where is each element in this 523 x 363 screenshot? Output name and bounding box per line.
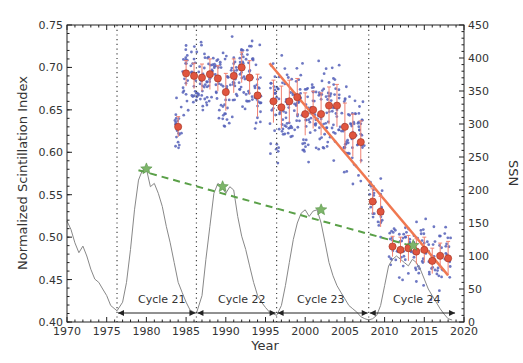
- raw-point: [420, 229, 423, 232]
- raw-point: [357, 174, 360, 177]
- raw-point: [331, 66, 334, 69]
- raw-point: [230, 69, 233, 72]
- mean-point: [278, 104, 285, 111]
- raw-point: [323, 72, 326, 75]
- raw-point: [438, 289, 441, 292]
- raw-point: [269, 82, 272, 85]
- raw-point: [182, 89, 185, 92]
- mean-point: [270, 98, 277, 105]
- arrow-head-right: [270, 310, 276, 316]
- y2-tick-label: 200: [468, 184, 489, 197]
- raw-point: [401, 278, 404, 281]
- raw-point: [229, 83, 232, 86]
- raw-point: [338, 64, 341, 67]
- raw-point: [203, 98, 206, 101]
- mean-point: [175, 123, 182, 130]
- raw-point: [180, 132, 183, 135]
- raw-point: [216, 97, 219, 100]
- raw-point: [251, 98, 254, 101]
- mean-point: [294, 94, 301, 101]
- raw-point: [243, 75, 246, 78]
- raw-point: [323, 133, 326, 136]
- raw-point: [379, 177, 382, 180]
- x-tick-label: 1980: [132, 325, 160, 338]
- raw-point: [309, 117, 312, 120]
- raw-point: [417, 272, 420, 275]
- raw-point: [238, 81, 241, 84]
- raw-point: [333, 93, 336, 96]
- mean-point: [190, 72, 197, 79]
- raw-point: [295, 119, 298, 122]
- raw-point: [330, 99, 333, 102]
- raw-point: [186, 79, 189, 82]
- raw-point: [186, 54, 189, 57]
- raw-point: [256, 116, 259, 119]
- raw-point: [444, 226, 447, 229]
- raw-point: [332, 123, 335, 126]
- y-tick-label: 0.45: [39, 274, 64, 287]
- raw-point: [315, 146, 318, 149]
- raw-point: [245, 58, 248, 61]
- mean-point: [325, 102, 332, 109]
- raw-point: [449, 265, 452, 268]
- raw-point: [285, 116, 288, 119]
- raw-point: [413, 256, 416, 259]
- mean-point: [214, 75, 221, 82]
- raw-point: [254, 86, 257, 89]
- x-tick-label: 1985: [172, 325, 200, 338]
- raw-point: [197, 93, 200, 96]
- raw-point: [185, 44, 188, 47]
- raw-point: [252, 59, 255, 62]
- raw-point: [304, 145, 307, 148]
- raw-point: [259, 76, 262, 79]
- raw-point: [201, 109, 204, 112]
- raw-point: [358, 105, 361, 108]
- raw-point: [274, 92, 277, 95]
- raw-point: [311, 86, 314, 89]
- raw-point: [424, 218, 427, 221]
- y2-tick-label: 150: [468, 217, 489, 230]
- mean-point: [421, 246, 428, 253]
- raw-point: [428, 273, 431, 276]
- raw-point: [195, 51, 198, 54]
- raw-point: [228, 99, 231, 102]
- raw-point: [388, 255, 391, 258]
- raw-point: [332, 159, 335, 162]
- raw-point: [231, 35, 234, 38]
- raw-point: [222, 52, 225, 55]
- raw-point: [318, 94, 321, 97]
- raw-point: [223, 124, 226, 127]
- y-tick-label: 0.60: [39, 146, 64, 159]
- raw-point: [357, 125, 360, 128]
- raw-point: [280, 54, 283, 57]
- raw-point: [255, 122, 258, 125]
- raw-point: [445, 243, 448, 246]
- raw-point: [255, 63, 258, 66]
- raw-point: [392, 231, 395, 234]
- raw-point: [242, 91, 245, 94]
- raw-point: [295, 67, 298, 70]
- raw-point: [193, 94, 196, 97]
- raw-point: [324, 122, 327, 125]
- raw-point: [281, 81, 284, 84]
- raw-point: [440, 276, 443, 279]
- mean-point: [230, 72, 237, 79]
- mean-point: [377, 208, 384, 215]
- raw-point: [193, 58, 196, 61]
- raw-point: [200, 94, 203, 97]
- mean-point: [206, 71, 213, 78]
- raw-point: [404, 235, 407, 238]
- raw-point: [309, 131, 312, 134]
- raw-point: [222, 85, 225, 88]
- mean-point: [389, 243, 396, 250]
- raw-point: [350, 123, 353, 126]
- raw-point: [296, 126, 299, 129]
- raw-point: [415, 268, 418, 271]
- raw-point: [206, 81, 209, 84]
- mean-point: [238, 64, 245, 71]
- raw-point: [277, 146, 280, 149]
- mean-point: [429, 257, 436, 264]
- raw-point: [208, 100, 211, 103]
- raw-point: [233, 98, 236, 101]
- raw-point: [259, 121, 262, 124]
